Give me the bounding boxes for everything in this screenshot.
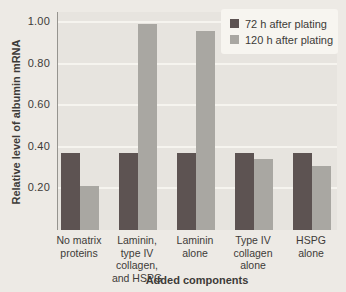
legend-label: 120 h after plating bbox=[245, 34, 333, 46]
bar-series2-cat5 bbox=[312, 166, 331, 230]
y-tick-label: 1.00 bbox=[0, 15, 50, 27]
bar-series2-cat4 bbox=[254, 159, 273, 230]
x-category-label-4: Type IVcollagenalone bbox=[224, 234, 282, 272]
bar-group-1 bbox=[61, 12, 99, 230]
bar-series1-cat1 bbox=[61, 153, 80, 230]
bar-series2-cat1 bbox=[80, 186, 99, 230]
y-tick-label: 0.60 bbox=[0, 98, 50, 110]
series-72h-swatch-icon bbox=[230, 19, 239, 28]
bar-series1-cat5 bbox=[293, 153, 312, 230]
legend-item: 72 h after plating bbox=[230, 16, 338, 31]
bar-series1-cat4 bbox=[235, 153, 254, 230]
series-120h-swatch-icon bbox=[230, 35, 239, 44]
albumin-mrna-bar-chart: Relative level of albumin mRNA 0.200.400… bbox=[0, 0, 346, 292]
x-category-label-3: Lamininalone bbox=[166, 234, 224, 259]
legend: 72 h after plating 120 h after plating bbox=[221, 9, 338, 54]
x-category-label-5: HSPGalone bbox=[282, 234, 340, 259]
y-tick-label: 0.20 bbox=[0, 181, 50, 193]
bar-series2-cat3 bbox=[196, 31, 215, 230]
bar-series2-cat2 bbox=[138, 24, 157, 230]
x-category-label-1: No matrixproteins bbox=[50, 234, 108, 259]
bar-group-3 bbox=[177, 12, 215, 230]
bar-series1-cat3 bbox=[177, 153, 196, 230]
legend-item: 120 h after plating bbox=[230, 32, 338, 47]
x-axis-title: Added components bbox=[57, 274, 337, 286]
bar-series1-cat2 bbox=[119, 153, 138, 230]
bar-group-2 bbox=[119, 12, 157, 230]
y-tick-label: 0.80 bbox=[0, 57, 50, 69]
y-tick-label: 0.40 bbox=[0, 140, 50, 152]
legend-label: 72 h after plating bbox=[245, 18, 327, 30]
